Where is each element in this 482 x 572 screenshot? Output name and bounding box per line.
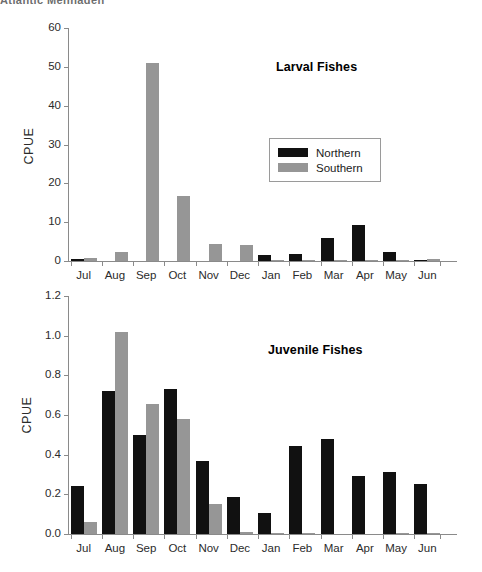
x-tick-label: Sep [131,542,162,554]
y-tick-label: 0.2 [27,487,61,499]
bar-southern-nov [209,504,222,534]
x-tick-label: Mar [318,269,349,281]
legend-label-northern: Northern [316,147,361,159]
x-tick-label: Mar [318,542,349,554]
y-tick-label: 1.0 [27,329,61,341]
cutoff-header-text: Atlantic Menhaden [0,0,200,6]
bar-group [71,28,97,261]
bar-southern-aug [115,332,128,534]
x-tick-mark [102,535,103,539]
x-tick-mark [196,262,197,266]
bar-northern-feb [289,254,302,261]
x-tick-mark [352,535,353,539]
bar-group [133,296,159,534]
x-tick-label: Jan [256,269,287,281]
x-tick-mark [440,262,441,266]
bar-southern-dec [240,532,253,534]
bar-northern-mar [321,238,334,261]
x-tick-label: Apr [349,542,380,554]
legend-item-southern: Southern [278,160,371,175]
bar-northern-jul [71,486,84,534]
x-tick-label: Dec [224,269,255,281]
x-tick-mark [383,535,384,539]
bar-group [227,296,253,534]
y-tick-label: 0.4 [27,448,61,460]
bar-southern-feb [302,533,315,534]
bar-northern-dec [227,497,240,534]
bar-southern-oct [177,196,190,261]
bar-group [383,296,409,534]
bar-group [227,28,253,261]
juvenile-plot-area: 0.00.20.40.60.81.01.2JulAugSepOctNovDecJ… [68,296,443,534]
y-tick-label: 1.2 [27,289,61,301]
x-tick-label: Apr [349,269,380,281]
y-tick-label: 0.0 [27,527,61,539]
bar-northern-apr [352,225,365,261]
x-tick-mark [321,262,322,266]
x-tick-mark [196,535,197,539]
x-tick-mark [414,535,415,539]
bar-northern-jun [414,484,427,534]
bar-group [414,28,440,261]
x-tick-mark [71,535,72,539]
larval-fishes-chart-panel: CPUE Larval Fishes 0102030405060JulAugSe… [0,14,482,286]
y-tick-label: 60 [27,21,61,33]
x-tick-mark [102,262,103,266]
bar-group [196,28,222,261]
bar-northern-nov [196,461,209,534]
x-axis-line [68,534,457,535]
bars-layer [68,296,443,534]
y-tick-label: 20 [27,176,61,188]
x-tick-label: Jun [412,269,443,281]
bars-layer [68,28,443,261]
x-tick-mark [164,262,165,266]
x-tick-mark [227,262,228,266]
x-tick-mark [258,535,259,539]
bar-northern-mar [321,439,334,534]
x-tick-label: Jan [256,542,287,554]
bar-group [414,296,440,534]
legend-item-northern: Northern [278,145,371,160]
chart-legend: Northern Southern [269,138,381,182]
bar-southern-oct [177,419,190,534]
x-tick-mark [440,535,441,539]
bar-group [352,296,378,534]
bar-group [164,28,190,261]
juvenile-fishes-chart-panel: CPUE Juvenile Fishes 0.00.20.40.60.81.01… [0,290,482,572]
bar-southern-aug [115,252,128,261]
bar-northern-jul [71,259,84,261]
x-tick-label: Oct [162,542,193,554]
bar-southern-may [396,260,409,261]
bar-southern-dec [240,245,253,261]
x-tick-mark [164,535,165,539]
bar-northern-oct [164,389,177,534]
bar-southern-jun [427,259,440,261]
larval-plot-area: 0102030405060JulAugSepOctNovDecJanFebMar… [68,28,443,261]
x-tick-label: May [381,542,412,554]
x-tick-label: Jun [412,542,443,554]
bar-southern-sep [146,63,159,261]
bar-northern-jan [258,513,271,534]
bar-northern-aug [102,391,115,534]
bar-northern-may [383,472,396,534]
bar-group [102,296,128,534]
bar-southern-apr [365,260,378,261]
bar-southern-feb [302,260,315,261]
x-tick-mark [352,262,353,266]
x-tick-label: Oct [162,269,193,281]
x-tick-label: Nov [193,269,224,281]
x-tick-mark [258,262,259,266]
bar-southern-jul [84,258,97,261]
y-tick-label: 40 [27,99,61,111]
bar-southern-jun [427,533,440,534]
x-axis-line [68,261,457,262]
bar-group [258,296,284,534]
bar-northern-sep [133,435,146,534]
x-tick-label: Aug [99,269,130,281]
x-tick-mark [414,262,415,266]
bar-group [321,296,347,534]
bar-northern-jan [258,255,271,261]
bar-group [383,28,409,261]
bar-northern-jun [414,260,427,261]
y-tick-label: 10 [27,215,61,227]
